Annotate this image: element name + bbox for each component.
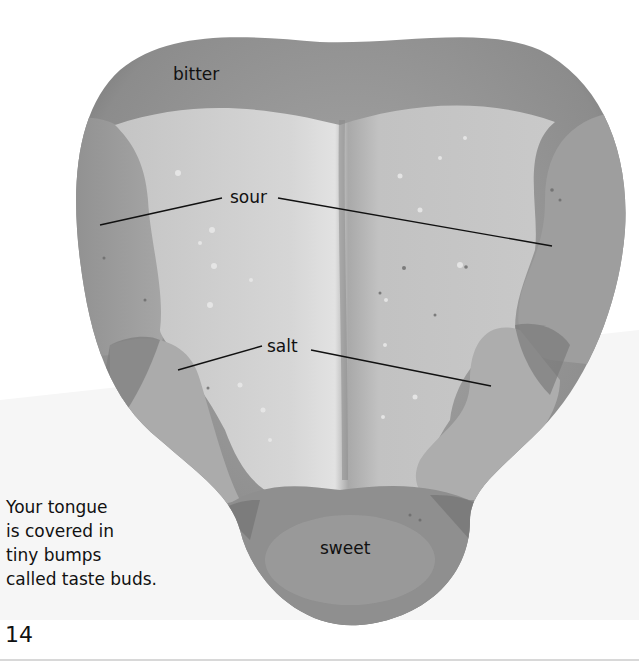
caption-line: called taste buds. [6, 567, 157, 591]
label-bitter: bitter [173, 66, 219, 83]
label-salt: salt [267, 338, 298, 355]
bottom-rule [0, 659, 639, 661]
page-number: 14 [5, 622, 33, 647]
caption-line: is covered in [6, 519, 157, 543]
label-sour: sour [230, 189, 267, 206]
tongue-diagram-page: bitter sour salt sweet Your tongue is co… [0, 0, 639, 666]
caption-line: tiny bumps [6, 543, 157, 567]
label-sweet: sweet [320, 540, 370, 557]
caption-line: Your tongue [6, 495, 157, 519]
caption: Your tongue is covered in tiny bumps cal… [6, 495, 157, 591]
